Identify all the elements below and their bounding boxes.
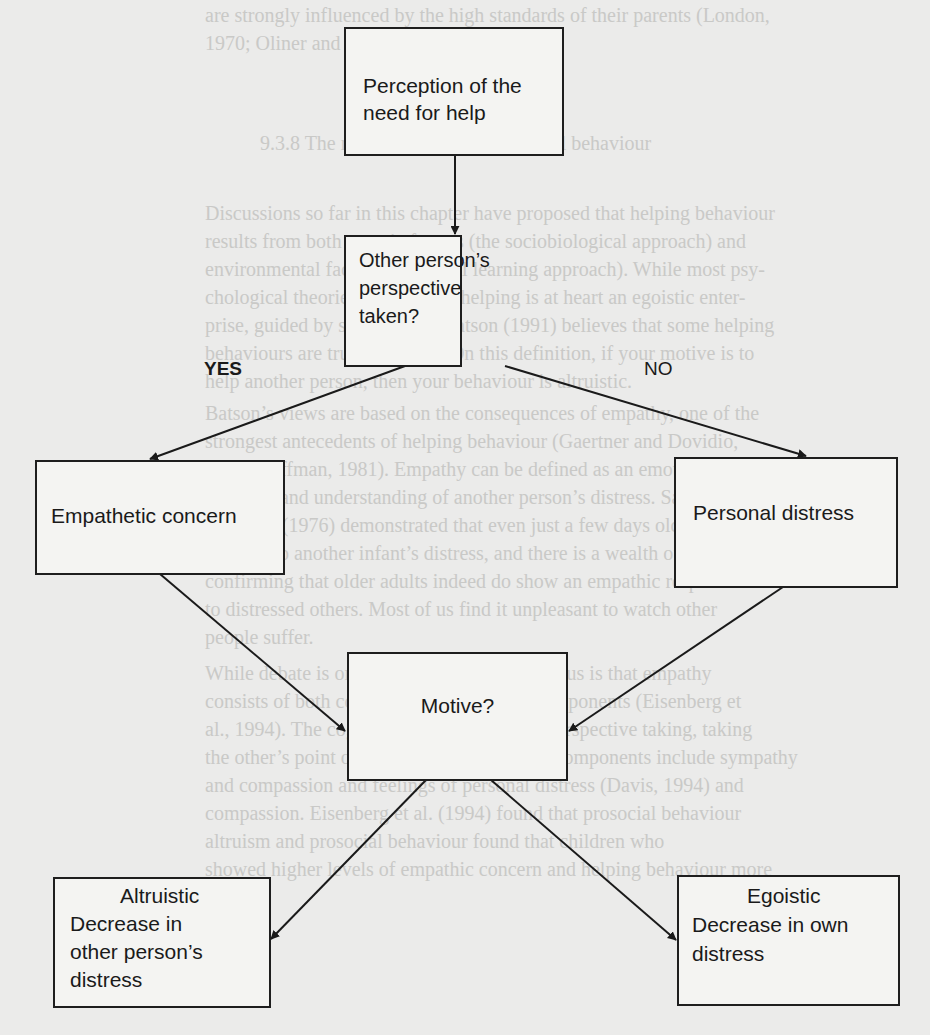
node-altruistic: Altruistic Decrease in other person’s di… <box>53 877 271 1008</box>
edge-label-yes: YES <box>204 358 242 380</box>
arrow-motive-to-altruistic <box>271 780 426 939</box>
arrow-personal-to-motive <box>569 587 783 731</box>
node-text: Other person’s <box>359 246 460 274</box>
node-text: need for help <box>363 99 562 126</box>
arrow-yes-to-empathetic <box>150 366 405 459</box>
node-heading: Altruistic <box>70 882 269 910</box>
node-text: other person’s <box>70 938 269 966</box>
node-text: Personal distress <box>693 499 896 526</box>
node-empathetic-concern: Empathetic concern <box>35 460 285 575</box>
node-perception: Perception of the need for help <box>344 27 564 156</box>
node-text: Decrease in <box>70 910 269 938</box>
node-text: Decrease in own <box>692 910 898 939</box>
node-text: Perception of the <box>363 72 562 99</box>
edge-label-no: NO <box>644 358 673 380</box>
node-text: distress <box>692 939 898 968</box>
node-motive: Motive? <box>347 652 568 781</box>
node-text: perspective <box>359 274 460 302</box>
node-text: distress <box>70 966 269 994</box>
node-text: Motive? <box>349 692 566 719</box>
node-text: taken? <box>359 302 460 330</box>
arrow-motive-to-egoistic <box>491 780 676 940</box>
node-heading: Egoistic <box>692 881 898 910</box>
arrow-empathetic-to-motive <box>160 574 345 731</box>
node-egoistic: Egoistic Decrease in own distress <box>677 875 900 1006</box>
node-text: Empathetic concern <box>51 502 283 529</box>
node-personal-distress: Personal distress <box>674 457 898 588</box>
node-perspective: Other person’s perspective taken? <box>344 235 462 367</box>
